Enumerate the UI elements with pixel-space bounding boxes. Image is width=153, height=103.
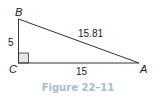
side-label-ab: 15.81	[78, 28, 103, 39]
right-angle-marker	[19, 53, 29, 63]
triangle-figure: B C A 5 15 15.81 Figure 22–11	[0, 0, 153, 103]
vertex-label-c: C	[9, 63, 17, 75]
side-label-ca: 15	[76, 66, 88, 77]
vertex-label-b: B	[15, 6, 22, 18]
figure-caption: Figure 22–11	[42, 82, 115, 93]
side-label-bc: 5	[8, 37, 14, 48]
side-ab-hypotenuse	[19, 19, 140, 63]
vertex-label-a: A	[139, 63, 147, 75]
